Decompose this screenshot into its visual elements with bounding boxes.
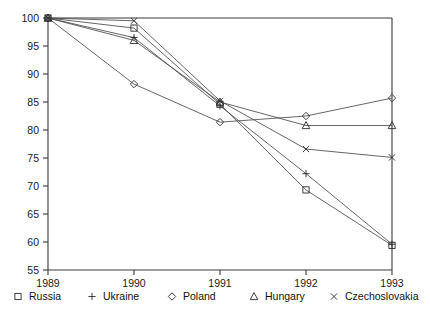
legend-item-russia: Russia: [15, 290, 61, 302]
x-tick-label: 1989: [36, 277, 60, 289]
y-tick-label: 85: [27, 96, 39, 108]
plot-frame: [48, 18, 392, 270]
legend-item-czechoslovakia: Czechoslovakia: [331, 290, 419, 302]
y-axis-ticks: 100959085807570656055: [21, 12, 48, 276]
y-tick-label: 75: [27, 152, 39, 164]
legend-label-poland: Poland: [183, 290, 216, 302]
legend-item-ukraine: Ukraine: [88, 290, 139, 302]
series-ukraine: [44, 14, 395, 247]
y-tick-label: 90: [27, 68, 39, 80]
data-point-marker-triangle: [250, 293, 258, 300]
y-tick-label: 100: [21, 12, 39, 24]
diamond-icon: [168, 293, 175, 300]
series-line-ukraine: [48, 18, 392, 244]
legend-item-poland: Poland: [168, 290, 216, 302]
y-tick-label: 80: [27, 124, 39, 136]
series-czechoslovakia: [45, 15, 395, 161]
y-tick-label: 60: [27, 236, 39, 248]
x-tick-label: 1991: [208, 277, 232, 289]
legend-label-russia: Russia: [29, 290, 61, 302]
series-russia: [45, 15, 395, 249]
triangle-icon: [250, 293, 258, 300]
x-axis-ticks: 19891990199119921993: [36, 270, 404, 289]
series-line-russia: [48, 18, 392, 245]
legend: RussiaUkrainePolandHungaryCzechoslovakia: [15, 290, 419, 302]
data-point-marker-diamond: [168, 293, 175, 300]
x-tick-label: 1992: [294, 277, 318, 289]
data-point-marker-cross: [331, 293, 337, 299]
y-tick-label: 70: [27, 180, 39, 192]
y-tick-label: 55: [27, 264, 39, 276]
data-point-marker-plus: [88, 293, 95, 300]
series-hungary: [44, 14, 396, 129]
legend-label-czechoslovakia: Czechoslovakia: [345, 290, 419, 302]
y-tick-label: 65: [27, 208, 39, 220]
square-icon: [15, 293, 21, 299]
y-tick-label: 95: [27, 40, 39, 52]
legend-label-hungary: Hungary: [265, 290, 305, 302]
data-point-marker-square: [15, 293, 21, 299]
x-tick-label: 1990: [122, 277, 146, 289]
legend-item-hungary: Hungary: [250, 290, 305, 302]
chart-canvas: 1009590858075706560551989199019911992199…: [0, 0, 430, 332]
x-tick-label: 1993: [380, 277, 404, 289]
legend-label-ukraine: Ukraine: [103, 290, 139, 302]
series-line-czechoslovakia: [48, 18, 392, 157]
line-chart: 1009590858075706560551989199019911992199…: [0, 0, 430, 332]
